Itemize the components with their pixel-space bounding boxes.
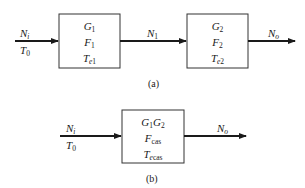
output-noise-label-b: No [217, 123, 228, 136]
block-1-gain: G1 [59, 20, 120, 36]
intermediate-noise-label: N1 [147, 28, 158, 41]
block-2-temp: Te2 [187, 52, 248, 68]
cascade-temp: Tecas [122, 148, 184, 164]
input-noise-label-b: Ni [66, 123, 75, 136]
caption-a: (a) [148, 78, 159, 89]
block-2-params: G2 F2 Te2 [187, 20, 248, 68]
block-1-noise-figure: F1 [59, 36, 120, 52]
input-noise-label-a: Ni [20, 28, 29, 41]
input-temp-label-a: T0 [20, 45, 30, 58]
block-1-temp: Te1 [59, 52, 120, 68]
block-2-gain: G2 [187, 20, 248, 36]
cascade-block-params: G1G2 Fcas Tecas [122, 116, 184, 164]
input-temp-label-b: T0 [66, 140, 76, 153]
cascade-noise-figure: Fcas [122, 132, 184, 148]
block-1-params: G1 F1 Te1 [59, 20, 120, 68]
cascade-gain: G1G2 [122, 116, 184, 132]
block-2-noise-figure: F2 [187, 36, 248, 52]
output-noise-label-a: No [268, 28, 279, 41]
caption-b: (b) [146, 173, 158, 184]
